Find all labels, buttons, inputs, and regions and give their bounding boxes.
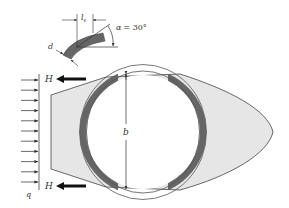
distributed-load: q bbox=[21, 74, 39, 199]
angle-label: α= 30° bbox=[116, 23, 147, 32]
force-bottom-label: H bbox=[44, 181, 53, 191]
length-label: ls bbox=[81, 13, 87, 23]
force-top: H bbox=[44, 74, 86, 84]
diameter-label: b bbox=[123, 127, 129, 137]
force-top-label: H bbox=[44, 74, 53, 84]
load-label: q bbox=[26, 190, 31, 199]
thickness-label: d bbox=[48, 42, 53, 51]
load-arrows bbox=[21, 80, 38, 182]
wall-strip bbox=[63, 33, 105, 59]
diagram: b q H H α= 30° ls bbox=[0, 0, 289, 208]
force-bottom: H bbox=[44, 181, 86, 191]
detail-inset: α= 30° ls d bbox=[48, 13, 147, 66]
